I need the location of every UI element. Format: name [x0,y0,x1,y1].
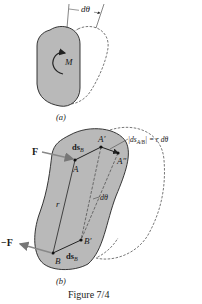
label-r: r [56,199,60,209]
label-A-prime: A′ [97,134,106,144]
part-a: dθ M (a) [37,3,108,122]
point-A [73,158,76,161]
point-B-prime [79,238,82,241]
figure-7-4: dθ M (a) F −F A A′ A″ B B′ r [0,0,202,304]
dim-line-left [67,4,69,28]
dim-line-right [96,4,104,28]
point-A-prime [99,145,102,148]
force-neg-F-label: −F [1,237,13,248]
part-b: F −F A A′ A″ B B′ r dθ dsB dsB |dsA/B| =… [1,127,168,286]
body-a [37,26,80,106]
angle-label-a: dθ [81,4,91,14]
label-A: A [72,164,79,174]
label-B-prime: B′ [84,236,92,246]
label-dtheta-b: dθ [100,193,108,202]
force-F-label: F [32,146,38,157]
moment-label: M [64,57,73,67]
sublabel-b: (b) [56,276,66,286]
label-B: B [55,256,61,266]
sublabel-a: (a) [56,112,66,122]
point-A-double-prime [116,151,119,154]
figure-caption: Figure 7/4 [68,289,109,300]
label-relative-displacement: |dsA/B| = r dθ [128,135,168,145]
label-A-double-prime: A″ [116,156,126,166]
